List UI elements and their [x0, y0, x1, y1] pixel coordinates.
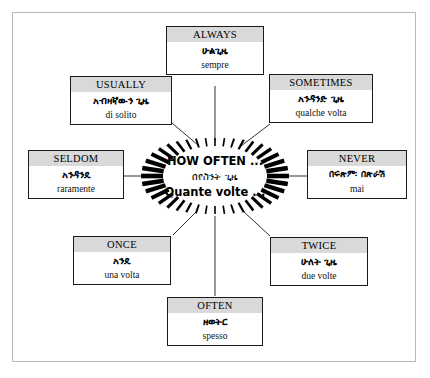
- node-seldom[interactable]: SELDOM አንዳንዴ raramente: [28, 150, 124, 199]
- node-never-amharic: በፍጽም፡ በጽራሽ: [308, 166, 406, 182]
- node-sometimes[interactable]: SOMETIMES አንዳንድ ጊዜ qualche volta: [269, 74, 373, 123]
- node-always-italian: sempre: [167, 58, 263, 74]
- node-usually-italian: di solito: [71, 108, 171, 124]
- node-twice-italian: due volte: [271, 269, 367, 285]
- node-often-italian: spesso: [168, 329, 262, 345]
- node-twice-amharic: ሁለት ጊዜ: [271, 253, 367, 269]
- node-sometimes-italian: qualche volta: [270, 106, 372, 122]
- connector-sometimes: [241, 124, 270, 146]
- node-never-italian: mai: [308, 182, 406, 198]
- node-usually-amharic: አብዛኛውን ጊዜ: [71, 92, 171, 108]
- diagram-page: ALWAYS ሁልጊዜ sempre USUALLY አብዛኛውን ጊዜ di …: [0, 0, 430, 378]
- sunburst-ray: [196, 139, 199, 148]
- sunburst-ray: [239, 203, 244, 213]
- sunburst-ray: [231, 205, 234, 214]
- node-usually-english: USUALLY: [71, 77, 171, 92]
- center-hub-italian: Quante volte ...: [165, 184, 266, 200]
- sunburst-ray: [206, 206, 207, 214]
- sunburst-ray: [196, 205, 199, 214]
- node-sometimes-english: SOMETIMES: [270, 75, 372, 90]
- node-seldom-italian: raramente: [29, 182, 123, 198]
- node-once[interactable]: ONCE አንዴ una volta: [73, 236, 171, 285]
- node-once-english: ONCE: [74, 237, 170, 252]
- connector-once: [173, 210, 198, 235]
- node-always-amharic: ሁልጊዜ: [167, 42, 263, 58]
- node-once-italian: una volta: [74, 268, 170, 284]
- node-seldom-english: SELDOM: [29, 151, 123, 166]
- sunburst-ray: [186, 203, 191, 213]
- node-twice[interactable]: TWICE ሁለት ጊዜ due volte: [270, 237, 368, 286]
- node-often-english: OFTEN: [168, 298, 262, 313]
- center-hub-english: HOW OFTEN ...: [167, 153, 263, 169]
- node-never-english: NEVER: [308, 151, 406, 166]
- node-often-amharic: ዘወትር: [168, 313, 262, 329]
- node-once-amharic: አንዴ: [74, 252, 170, 268]
- sunburst-ray: [223, 138, 224, 146]
- sunburst-ray: [231, 139, 234, 148]
- sunburst-ray: [206, 138, 207, 146]
- node-always-english: ALWAYS: [167, 27, 263, 42]
- center-hub-amharic: በየስንት ጊዜ: [192, 169, 237, 184]
- connector-twice: [243, 211, 270, 236]
- center-hub: HOW OFTEN ... በየስንት ጊዜ Quante volte ...: [152, 148, 278, 204]
- node-never[interactable]: NEVER በፍጽም፡ በጽራሽ mai: [307, 150, 407, 199]
- node-sometimes-amharic: አንዳንድ ጊዜ: [270, 90, 372, 106]
- node-twice-english: TWICE: [271, 238, 367, 253]
- node-often[interactable]: OFTEN ዘወትር spesso: [167, 297, 263, 346]
- node-always[interactable]: ALWAYS ሁልጊዜ sempre: [166, 26, 264, 75]
- node-seldom-amharic: አንዳንዴ: [29, 166, 123, 182]
- node-usually[interactable]: USUALLY አብዛኛውን ጊዜ di solito: [70, 76, 172, 125]
- sunburst-ray: [223, 206, 224, 214]
